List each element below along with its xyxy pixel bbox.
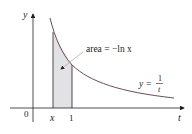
y-axis-label: y — [22, 9, 28, 20]
curve-eq-denominator: t — [158, 85, 161, 94]
one-tick-label: 1 — [69, 113, 74, 123]
curve-eq-numerator: 1 — [158, 74, 162, 83]
x-tick-label: x — [49, 112, 55, 123]
shaded-area — [53, 32, 72, 108]
t-axis-label: t — [178, 112, 181, 123]
diagram-canvas: y t 0 x 1 area = −ln x y = 1 t — [0, 0, 192, 134]
origin-label: 0 — [24, 109, 29, 119]
curve-eq-lhs: y = — [138, 79, 152, 89]
area-label: area = −ln x — [86, 44, 132, 54]
